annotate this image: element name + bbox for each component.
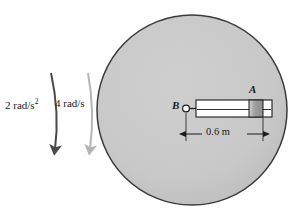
pin-joint-b (183, 105, 190, 112)
point-b-label: B (172, 100, 179, 111)
collar-block (249, 100, 263, 117)
angular-acceleration-arrow (51, 73, 57, 149)
figure-canvas (0, 0, 296, 224)
dimension-label: 0.6 m (206, 127, 230, 138)
angular-velocity-label: 4 rad/s (55, 98, 85, 109)
point-a-label: A (249, 84, 256, 95)
angular-velocity-arrow (88, 73, 92, 149)
angular-acceleration-label: 2 rad/s2 (5, 98, 38, 111)
figure-rotating-disk: 2 rad/s2 4 rad/s A B 0.6 m (0, 0, 296, 224)
